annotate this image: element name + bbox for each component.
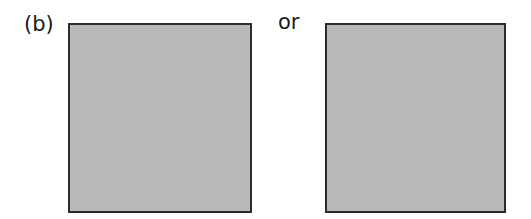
panel-label: (b) bbox=[24, 14, 54, 35]
gray-square-right bbox=[325, 23, 506, 213]
or-connector-text: or bbox=[278, 12, 299, 33]
gray-square-left bbox=[68, 23, 252, 213]
